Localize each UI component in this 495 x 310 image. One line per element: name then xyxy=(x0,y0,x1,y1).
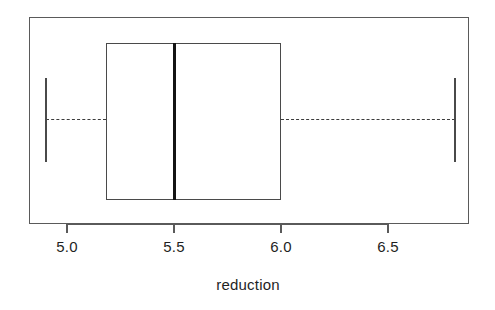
x-axis-tick-5-5 xyxy=(173,224,174,233)
x-axis-tick-label-6-5: 6.5 xyxy=(377,238,398,255)
boxplot-figure: 5.0 5.5 6.0 6.5 reduction xyxy=(0,0,495,310)
whisker-cap-lower xyxy=(45,78,47,162)
whisker-line-upper xyxy=(281,119,455,120)
x-axis-tick-6-5 xyxy=(387,224,388,233)
x-axis-tick-label-5-0: 5.0 xyxy=(56,238,77,255)
x-axis-tick-label-6-0: 6.0 xyxy=(270,238,291,255)
x-axis-title: reduction xyxy=(216,276,280,293)
median-line xyxy=(173,43,176,200)
x-axis-tick-5-0 xyxy=(66,224,67,233)
whisker-cap-upper xyxy=(454,78,456,162)
x-axis-baseline xyxy=(67,224,388,225)
whisker-line-lower xyxy=(46,119,106,120)
x-axis-tick-label-5-5: 5.5 xyxy=(163,238,184,255)
x-axis-tick-6-0 xyxy=(280,224,281,233)
interquartile-box xyxy=(106,43,281,200)
